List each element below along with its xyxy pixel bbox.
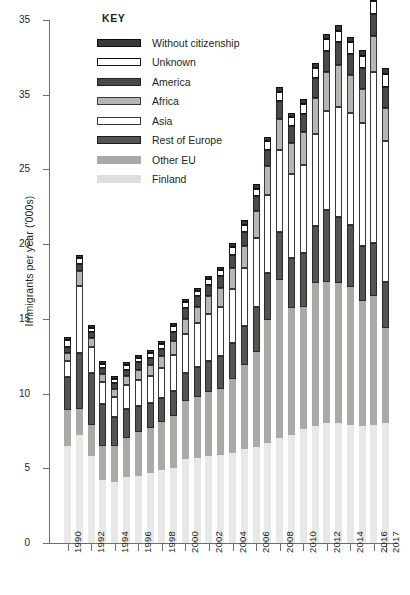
legend-item-without-citizenship[interactable]: Without citizenship <box>97 33 272 53</box>
bar-segment <box>288 143 295 174</box>
x-axis-labels: 1990199219941996199820002002200420062008… <box>58 553 398 595</box>
stacked-bar-chart: Immigrants per year ('000s) 051015202535… <box>0 0 410 595</box>
bar-segment <box>241 225 248 232</box>
bar-segment <box>253 307 260 352</box>
bar-segment <box>335 65 342 107</box>
y-axis-tick <box>43 95 49 96</box>
x-axis-tick <box>256 544 257 551</box>
bar-segment <box>276 280 283 438</box>
bar-segment <box>288 174 295 258</box>
bar-segment <box>253 211 260 238</box>
y-axis-tick <box>43 20 49 21</box>
bar-segment <box>300 114 307 132</box>
bar-segment <box>347 225 354 288</box>
bar-segment <box>359 301 366 427</box>
bar <box>359 50 366 543</box>
bar-segment <box>170 416 177 468</box>
bar-segment <box>194 323 201 366</box>
legend-item-africa[interactable]: Africa <box>97 92 272 112</box>
legend-item-asia[interactable]: Asia <box>97 111 272 131</box>
bar-segment <box>323 282 330 424</box>
legend-rows: Without citizenshipUnknownAmericaAfricaA… <box>97 33 272 189</box>
x-axis-tick-label: 2002 <box>213 493 224 553</box>
legend-item-finland[interactable]: Finland <box>97 170 272 190</box>
bar-segment <box>241 326 248 365</box>
x-axis-tick <box>115 544 116 551</box>
bar-segment <box>288 258 295 309</box>
bar-segment <box>170 341 177 354</box>
bar-segment <box>205 392 212 456</box>
bar-segment <box>335 217 342 283</box>
bar-segment <box>99 446 106 480</box>
bar-segment <box>312 134 319 227</box>
bar-segment <box>323 51 330 72</box>
legend-item-other-eu[interactable]: Other EU <box>97 150 272 170</box>
bar-segment <box>158 368 165 398</box>
legend-item-unknown[interactable]: Unknown <box>97 53 272 73</box>
bar-segment <box>135 370 142 380</box>
bar <box>370 0 377 543</box>
bar-segment <box>335 283 342 423</box>
bar-segment <box>76 353 83 408</box>
bar-segment <box>158 356 165 368</box>
bar-segment <box>182 401 189 459</box>
bar-segment <box>359 56 366 68</box>
bar-segment <box>194 307 201 323</box>
bar-segment <box>312 78 319 97</box>
bar-segment <box>347 42 354 54</box>
bar-segment <box>194 397 201 458</box>
bar-segment <box>229 247 236 254</box>
bar-segment <box>217 307 224 356</box>
bar-segment <box>370 72 377 242</box>
bar-segment <box>323 72 330 111</box>
y-axis-tick <box>43 169 49 170</box>
bar-segment <box>229 453 236 543</box>
x-axis-tick <box>327 544 328 551</box>
bar-segment <box>76 409 83 436</box>
bar-segment <box>359 68 366 89</box>
bar-segment <box>147 376 154 403</box>
bar-segment <box>158 422 165 470</box>
bar <box>135 355 142 543</box>
bar-segment <box>135 476 142 543</box>
bar-segment <box>312 226 319 283</box>
x-axis-tick-label: 2012 <box>331 493 342 553</box>
y-axis-tick-label: 35 <box>0 15 30 25</box>
bar-segment <box>241 365 248 449</box>
legend-swatch <box>97 97 141 105</box>
bar-segment <box>276 119 283 150</box>
legend: KEY Without citizenshipUnknownAmericaAfr… <box>97 12 272 189</box>
bar-segment <box>99 382 106 404</box>
bar-segment <box>217 389 224 455</box>
bar <box>382 68 389 543</box>
bar-segment <box>264 195 271 273</box>
bar <box>88 325 95 543</box>
bar-segment <box>335 107 342 218</box>
x-axis-tick-label: 2017 <box>390 493 401 553</box>
x-axis-tick <box>233 544 234 551</box>
legend-item-rest-of-europe[interactable]: Rest of Europe <box>97 131 272 151</box>
legend-swatch <box>97 58 141 66</box>
y-axis-line <box>49 20 50 544</box>
bar-segment <box>323 210 330 282</box>
x-axis-ticks <box>58 544 398 552</box>
bar-segment <box>229 289 236 343</box>
bar-segment <box>217 288 224 307</box>
legend-item-america[interactable]: America <box>97 72 272 92</box>
x-axis-tick <box>303 544 304 551</box>
y-axis-tick <box>43 319 49 320</box>
bar-segment <box>276 101 283 119</box>
bar-segment <box>76 271 83 286</box>
bar-segment <box>347 287 354 424</box>
bar-segment <box>64 353 71 360</box>
legend-swatch <box>97 156 141 164</box>
legend-label: Finland <box>152 173 186 185</box>
legend-swatch <box>97 175 141 183</box>
bar-segment <box>264 273 271 321</box>
y-axis-tick <box>43 543 49 544</box>
bar-segment <box>253 196 260 211</box>
bar-segment <box>288 117 295 126</box>
bar-segment <box>253 447 260 543</box>
bar <box>205 276 212 543</box>
bar-segment <box>312 283 319 426</box>
